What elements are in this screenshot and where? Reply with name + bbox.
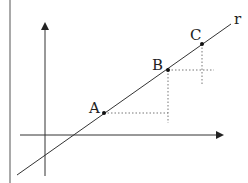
- label-a: A: [88, 99, 100, 117]
- line-r: [17, 24, 231, 175]
- label-r: r: [234, 10, 242, 28]
- label-c: C: [190, 26, 201, 44]
- line-diagram: A B C r: [0, 0, 248, 183]
- label-b: B: [152, 56, 163, 74]
- point-b: [166, 68, 170, 72]
- point-a: [102, 111, 106, 115]
